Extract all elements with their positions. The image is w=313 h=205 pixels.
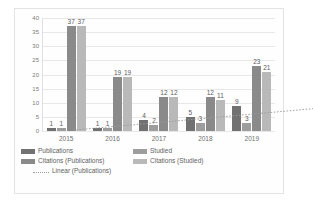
legend-row: Citations (Publications)Citations (Studi… <box>15 156 283 166</box>
legend-line-icon <box>33 172 49 173</box>
legend-label: Studied <box>150 147 172 155</box>
legend-label: Linear (Publications) <box>52 167 111 175</box>
y-axis-tick-40: 40 <box>32 15 39 21</box>
legend-label: Citations (Publications) <box>38 157 104 165</box>
y-axis-tick-15: 15 <box>32 86 39 92</box>
y-axis-tick-10: 10 <box>32 100 39 106</box>
legend-item-citations-publications[interactable]: Citations (Publications) <box>21 157 104 165</box>
legend-item-citations-studied[interactable]: Citations (Studied) <box>133 157 203 165</box>
legend-label: Citations (Studied) <box>150 157 203 165</box>
y-axis-tick-20: 20 <box>32 72 39 78</box>
legend-row: Linear (Publications) <box>15 166 283 176</box>
legend-item-linear-publications[interactable]: Linear (Publications) <box>33 167 111 175</box>
legend-item-studied[interactable]: Studied <box>133 147 172 155</box>
y-axis-tick-25: 25 <box>32 57 39 63</box>
legend-swatch-icon <box>133 149 147 154</box>
trendline-path <box>73 109 298 130</box>
y-axis-tick-30: 30 <box>32 43 39 49</box>
y-axis-tick-35: 35 <box>32 29 39 35</box>
legend-item-publications[interactable]: Publications <box>21 147 73 155</box>
chart-card: 0510152025303540 11373720151119192016421… <box>14 8 284 194</box>
legend-row: PublicationsStudied <box>15 146 283 156</box>
legend-label: Publications <box>38 147 73 155</box>
y-axis-tick-5: 5 <box>36 114 39 120</box>
legend-swatch-icon <box>133 159 147 164</box>
plot-area: 0510152025303540 11373720151119192016421… <box>42 18 275 131</box>
legend-swatch-icon <box>21 149 35 154</box>
y-axis-tick-0: 0 <box>36 128 39 134</box>
legend-swatch-icon <box>21 159 35 164</box>
chart-legend: PublicationsStudiedCitations (Publicatio… <box>15 146 283 176</box>
